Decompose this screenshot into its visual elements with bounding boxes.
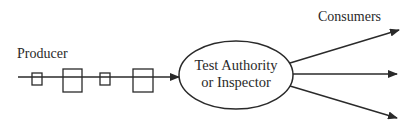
producer-label: Producer [17,46,68,61]
product-box-large-1 [63,69,82,92]
consumer-arrow-lower [290,86,397,118]
product-box-large-2 [133,69,153,92]
diagram-canvas: Producer Test Authority or Inspector Con… [0,0,415,124]
node-label-line1: Test Authority [194,57,278,73]
consumers-label: Consumers [318,9,381,24]
product-box-small-2 [100,73,110,85]
product-box-small-1 [32,73,42,85]
consumer-arrow-upper [290,30,399,63]
node-label-line2: or Inspector [201,74,271,90]
